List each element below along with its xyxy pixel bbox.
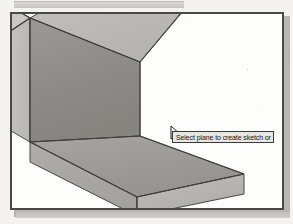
scan-artifact — [288, 60, 290, 61]
scanned-page: Select plane to create sketch or — [0, 0, 293, 224]
face-wall-left[interactable] — [12, 14, 30, 142]
scan-artifact — [288, 52, 290, 53]
partial-toolbar-strip[interactable] — [14, 1, 184, 8]
graphics-viewport[interactable] — [10, 12, 284, 210]
scan-artifact — [247, 69, 248, 70]
model-3d-view[interactable] — [12, 14, 282, 208]
status-tooltip: Select plane to create sketch or — [172, 131, 274, 143]
page-shadow-band — [16, 212, 290, 218]
